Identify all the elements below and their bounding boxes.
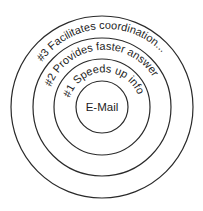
concentric-diagram: #3 Facilitates coordination... #2 Provid… xyxy=(0,0,203,211)
center-label: E-Mail xyxy=(86,101,119,113)
